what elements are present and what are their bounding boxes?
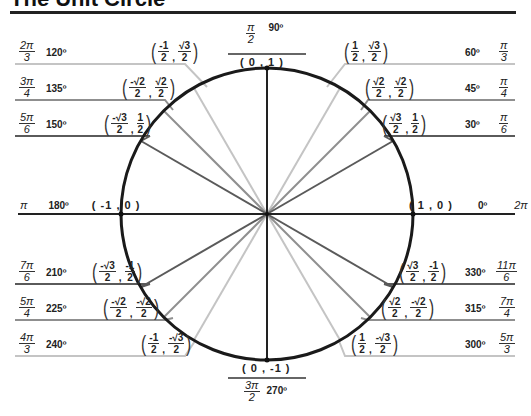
rad-330: 11π6 — [496, 260, 517, 283]
rad-0: 2π — [514, 199, 528, 211]
coord-315: (√22,-√22) — [380, 296, 435, 319]
deg-210: 210º — [46, 267, 66, 278]
shelf-120 — [15, 64, 207, 87]
rad-240: 4π3 — [19, 332, 35, 355]
deg-135: 135º — [46, 83, 66, 94]
deg-45: 45º — [465, 83, 480, 94]
rad-300: 5π3 — [499, 332, 515, 355]
shelf-60 — [327, 64, 515, 87]
label-180: π 180º ( -1 , 0 ) — [20, 199, 140, 211]
coord-45: (√22,√22) — [364, 76, 416, 99]
coord-210: (-√32,-12) — [91, 260, 144, 283]
rad-210: 7π6 — [19, 260, 35, 283]
rad-180: π — [20, 199, 27, 211]
coord-135: (-√22,√22) — [121, 76, 176, 99]
coord-150: (-√32,12) — [103, 112, 152, 135]
rad-120: 2π3 — [19, 40, 35, 63]
coord-0: ( 1 , 0 ) — [409, 199, 453, 211]
coord-60: (12,√32) — [343, 40, 389, 63]
rad-60: π3 — [499, 40, 508, 63]
rad-30: π6 — [499, 112, 508, 135]
deg-225: 225º — [46, 303, 66, 314]
rad-90: π2 — [246, 22, 255, 45]
coord-30: (√32,12) — [381, 112, 427, 135]
shelf-45 — [361, 100, 515, 110]
deg-315: 315º — [465, 303, 485, 314]
rad-225: 5π4 — [19, 296, 35, 319]
rad-45: π4 — [499, 76, 508, 99]
deg-60: 60º — [465, 47, 480, 58]
label-270: 3π2 270º — [244, 380, 287, 403]
rad-315: 7π4 — [499, 296, 515, 319]
deg-150: 150º — [46, 119, 66, 130]
coord-300: (12,-√32) — [350, 332, 399, 355]
deg-0: 0º — [478, 200, 487, 211]
coord-180: ( -1 , 0 ) — [92, 199, 141, 211]
coord-90: ( 0 , 1 ) — [240, 56, 284, 68]
deg-30: 30º — [465, 119, 480, 130]
deg-330: 330º — [465, 267, 485, 278]
coord-225: (-√22,-√22) — [102, 296, 160, 319]
coord-270: ( 0 , -1 ) — [242, 362, 291, 374]
label-0: ( 1 , 0 ) 0º 2π — [409, 199, 528, 211]
coord-330: (√32,-12) — [398, 260, 447, 283]
rad-150: 5π6 — [19, 112, 35, 135]
label-90: π2 90º — [246, 22, 283, 45]
coord-240: (-12,-√32) — [140, 332, 193, 355]
deg-270: 270º — [267, 385, 287, 396]
deg-90: 90º — [268, 22, 283, 33]
rad-135: 3π4 — [19, 76, 35, 99]
deg-180: 180º — [48, 200, 68, 211]
deg-300: 300º — [465, 339, 485, 350]
shelf-135 — [15, 100, 173, 110]
coord-120: (-12,√32) — [150, 40, 199, 63]
deg-240: 240º — [46, 339, 66, 350]
rad-270: 3π2 — [244, 380, 260, 403]
deg-120: 120º — [46, 47, 66, 58]
